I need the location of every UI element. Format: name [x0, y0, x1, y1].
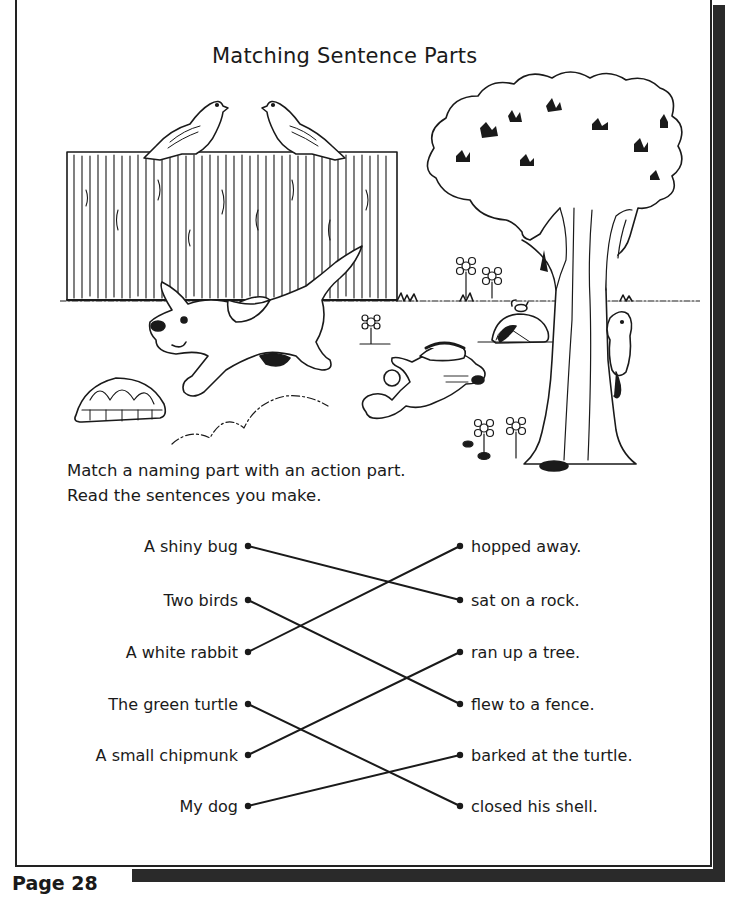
- flowers-bottom-icon: [463, 418, 526, 460]
- naming-part-small-chipmunk: A small chipmunk: [96, 746, 238, 765]
- fence-icon: [67, 152, 397, 300]
- instructions: Match a naming part with an action part.…: [67, 458, 406, 508]
- naming-part-shiny-bug: A shiny bug: [144, 537, 238, 556]
- turtle-shell-icon: [75, 378, 165, 422]
- action-part-flew-to-fence: flew to a fence.: [471, 695, 594, 714]
- action-part-sat-on-rock: sat on a rock.: [471, 591, 580, 610]
- action-part-closed-shell: closed his shell.: [471, 797, 598, 816]
- scene-illustration: [60, 60, 700, 480]
- page-number: Page 28: [12, 872, 98, 894]
- instruction-line-2: Read the sentences you make.: [67, 483, 406, 508]
- flower-icon: [360, 315, 390, 344]
- rock-with-bug-icon: [478, 300, 556, 343]
- naming-part-my-dog: My dog: [180, 797, 238, 816]
- naming-part-two-birds: Two birds: [164, 591, 238, 610]
- action-part-hopped-away: hopped away.: [471, 537, 581, 556]
- naming-part-green-turtle: The green turtle: [108, 695, 238, 714]
- naming-part-white-rabbit: A white rabbit: [126, 643, 238, 662]
- rabbit-icon: [362, 343, 485, 418]
- action-part-barked-at-turtle: barked at the turtle.: [471, 746, 632, 765]
- page-shadow-bottom: [132, 869, 725, 882]
- instruction-line-1: Match a naming part with an action part.: [67, 458, 406, 483]
- flowers-icon: [457, 258, 502, 299]
- page-shadow-right: [713, 5, 725, 882]
- action-part-ran-up-tree: ran up a tree.: [471, 643, 580, 662]
